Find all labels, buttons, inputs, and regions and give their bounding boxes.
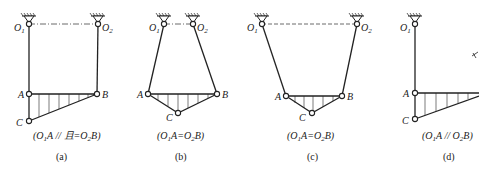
link-o2b — [342, 24, 357, 96]
caption: (c) — [307, 151, 318, 163]
hatch-lines — [158, 94, 208, 112]
fixed-support-icon — [21, 13, 36, 27]
pin-a — [26, 91, 31, 96]
pin-c — [26, 118, 31, 123]
fixed-support-icon — [254, 13, 269, 27]
figure-c: O1 O2 A B C (O1A=O2B) (c) — [247, 13, 372, 163]
pin-a — [145, 91, 150, 96]
condition-text: (O1A // O2B) — [422, 130, 473, 143]
link-o1a — [262, 24, 286, 96]
caption: (a) — [56, 151, 67, 163]
label-o2: O2 — [102, 22, 113, 35]
label-a: A — [17, 89, 25, 100]
label-c: C — [16, 117, 23, 128]
condition-text: (O1A=O2B) — [287, 130, 335, 143]
label-a: A — [402, 88, 410, 99]
link-o2b — [97, 24, 98, 94]
label-a: A — [136, 89, 144, 100]
label-c: C — [166, 112, 173, 123]
label-b: B — [222, 89, 228, 100]
condition-text: (O1A // 且=O2B) — [33, 130, 101, 143]
pin-a — [412, 90, 417, 95]
figure-d: O1 A C (O1A // O2B) (d) — [400, 13, 479, 163]
label-o1: O1 — [400, 22, 411, 35]
four-bar-linkage-diagrams: O1 O2 A B C (O1A // 且=O2B) (a) O1 O2 A B… — [0, 0, 479, 173]
partial-support-mark — [472, 52, 478, 56]
label-o2: O2 — [197, 22, 208, 35]
pin-b — [94, 91, 99, 96]
pin-c — [309, 110, 314, 115]
figure-a: O1 O2 A B C (O1A // 且=O2B) (a) — [14, 13, 113, 163]
label-o2: O2 — [361, 22, 372, 35]
fixed-support-icon — [156, 13, 171, 27]
label-b: B — [102, 89, 108, 100]
pin-b — [214, 91, 219, 96]
label-o1: O1 — [14, 22, 25, 35]
label-b: B — [347, 91, 353, 102]
label-c: C — [402, 115, 409, 126]
label-o1: O1 — [247, 22, 258, 35]
label-c: C — [299, 112, 306, 123]
figure-b: O1 O2 A B C (O1A=O2B) (b) — [136, 13, 228, 163]
caption: (d) — [443, 151, 455, 163]
label-a: A — [274, 91, 282, 102]
hatch-lines — [425, 93, 468, 115]
pin-c — [175, 110, 180, 115]
label-o1: O1 — [149, 22, 160, 35]
pin-c — [412, 116, 417, 121]
triangle-body — [286, 96, 342, 113]
condition-text: (O1A=O2B) — [157, 130, 205, 143]
fixed-support-icon — [407, 13, 422, 27]
pin-b — [339, 93, 344, 98]
triangle-body — [148, 94, 217, 113]
pin-a — [283, 93, 288, 98]
caption: (b) — [175, 151, 187, 163]
